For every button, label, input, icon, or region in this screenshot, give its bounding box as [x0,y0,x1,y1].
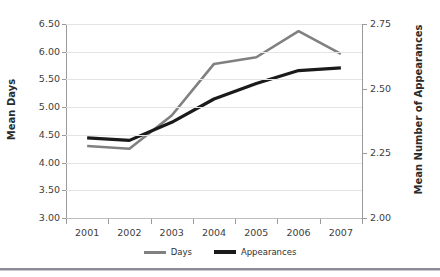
gridline [66,24,362,25]
x-axis-tick [320,219,321,224]
x-axis-tick-label: 2007 [318,227,364,238]
x-axis-tick [277,219,278,224]
right-axis-tick-label: 2.00 [370,213,410,223]
x-axis-tick-label: 2001 [64,227,110,238]
chart-page: Mean Days Mean Number of Appearances 6.5… [0,0,440,277]
plot-area [66,24,362,218]
left-axis-tick-label: 6.00 [20,47,60,57]
right-axis-line [362,24,363,219]
x-axis-tick [362,219,363,224]
x-axis-tick [108,219,109,224]
right-axis-title: Mean Number of Appearances [413,22,424,198]
left-axis-tick-label: 5.50 [20,74,60,84]
left-axis-tick-label: 3.50 [20,185,60,195]
right-axis-tick-label: 2.25 [370,148,410,158]
right-axis-tick [363,24,367,25]
series-lines [66,24,362,218]
dual-axis-line-chart: Mean Days Mean Number of Appearances 6.5… [0,0,440,277]
gridline [66,218,362,219]
right-axis-tick [363,153,367,154]
right-axis-tick-labels: 2.752.502.252.00 [370,0,414,240]
gridline [66,79,362,80]
gridline [66,135,362,136]
series-line-days [87,31,341,148]
x-axis-tick-label: 2005 [233,227,279,238]
left-axis-tick-labels: 6.506.005.505.004.504.003.503.00 [16,0,60,240]
x-axis-tick [66,219,67,224]
gridline [66,163,362,164]
x-axis-tick [235,219,236,224]
x-axis-tick [193,219,194,224]
chart-legend: DaysAppearances [0,247,440,257]
gridline [66,190,362,191]
legend-swatch-icon [144,251,166,254]
right-axis-tick [363,218,367,219]
x-axis-tick-label: 2004 [191,227,237,238]
right-axis-tick-label: 2.50 [370,84,410,94]
left-axis-tick-label: 6.50 [20,19,60,29]
legend-item-appearances[interactable]: Appearances [214,247,296,257]
left-axis-tick-label: 4.50 [20,130,60,140]
gridline [66,107,362,108]
x-axis-tick-label: 2003 [149,227,195,238]
legend-label: Appearances [241,247,296,257]
x-axis-tick-label: 2002 [106,227,152,238]
left-axis-tick-label: 5.00 [20,102,60,112]
right-axis-tick [363,89,367,90]
gridline [66,52,362,53]
legend-swatch-icon [214,250,236,254]
legend-label: Days [171,247,192,257]
x-axis-tick-label: 2006 [276,227,322,238]
left-axis-title: Mean Days [6,65,17,155]
right-axis-tick-label: 2.75 [370,19,410,29]
left-axis-tick-label: 4.00 [20,158,60,168]
x-axis-tick [151,219,152,224]
left-axis-tick-label: 3.00 [20,213,60,223]
footer-rule-soft [0,270,440,271]
legend-item-days[interactable]: Days [144,247,192,257]
